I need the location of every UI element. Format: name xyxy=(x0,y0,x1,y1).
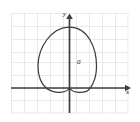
plot-canvas xyxy=(0,0,140,122)
x-axis-label: x xyxy=(126,89,129,96)
y-axis-arrow-icon xyxy=(66,14,73,20)
parameter-label-a: a xyxy=(77,58,81,66)
y-axis-label: y xyxy=(63,11,66,18)
cardioid-figure: y x a xyxy=(0,0,140,122)
cardioid-curve xyxy=(38,27,97,92)
